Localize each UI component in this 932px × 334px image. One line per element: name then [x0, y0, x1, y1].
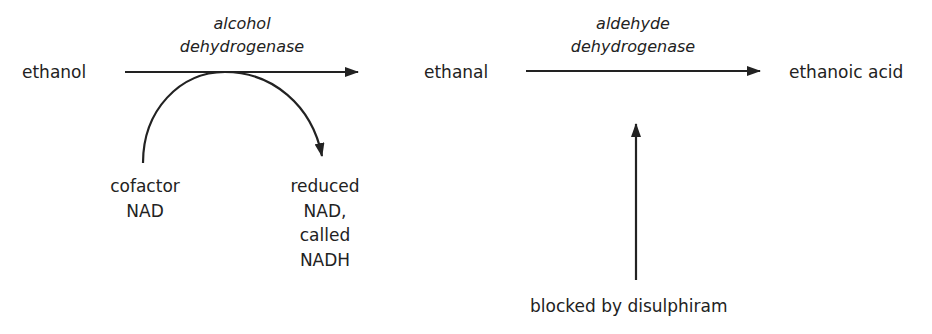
reduced-nadh-label: reduced NAD, called NADH [290, 174, 359, 272]
reduced-line1: reduced [290, 174, 359, 199]
cofactor-line2: NAD [110, 199, 180, 224]
enzyme-label-line2: dehydrogenase [571, 35, 695, 58]
node-ethanal: ethanal [424, 60, 488, 84]
node-ethanoic-acid: ethanoic acid [789, 60, 903, 84]
cofactor-nad-label: cofactor NAD [110, 174, 180, 223]
reduced-line4: NADH [290, 248, 359, 273]
enzyme-label-line1: aldehyde [571, 12, 695, 35]
enzyme-label-line1: alcohol [180, 12, 304, 35]
reduced-line2: NAD, [290, 199, 359, 224]
arrow-nad-to-nadh-curve [143, 72, 322, 163]
enzyme-label-line2: dehydrogenase [180, 35, 304, 58]
enzyme-aldehyde-dehydrogenase: aldehyde dehydrogenase [571, 12, 695, 58]
enzyme-alcohol-dehydrogenase: alcohol dehydrogenase [180, 12, 304, 58]
arrows-layer [0, 0, 932, 334]
cofactor-line1: cofactor [110, 174, 180, 199]
reduced-line3: called [290, 223, 359, 248]
inhibitor-disulphiram-label: blocked by disulphiram [530, 294, 728, 318]
node-ethanol: ethanol [22, 60, 86, 84]
